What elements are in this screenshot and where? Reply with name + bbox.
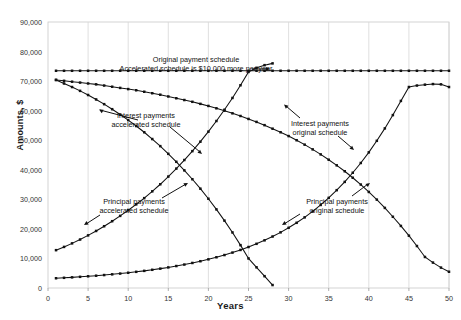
series-marker (167, 95, 170, 98)
y-tick-label: 10,000 (20, 254, 42, 263)
series-marker (263, 124, 266, 127)
series-marker (368, 70, 371, 73)
annotation-interest-original-note: Interest paymentsoriginal schedule (291, 119, 349, 137)
series-marker (319, 70, 322, 73)
series-marker (199, 103, 202, 106)
series-marker (432, 83, 435, 86)
series-marker (408, 86, 411, 89)
series-marker (95, 83, 98, 86)
series-marker (79, 70, 82, 73)
series-marker (215, 208, 218, 211)
y-axis-label: Amounts, $ (15, 77, 25, 173)
y-tick-label: 0 (38, 284, 42, 293)
series-marker (448, 270, 451, 273)
series-marker (55, 79, 58, 82)
series-marker (303, 216, 306, 219)
series-marker (87, 70, 90, 73)
series-marker (183, 169, 186, 172)
series-marker (416, 245, 419, 248)
series-marker (159, 145, 162, 148)
series-marker (103, 274, 106, 277)
series-marker (327, 158, 330, 161)
series-marker (151, 190, 154, 193)
series-marker (207, 258, 210, 261)
series-marker (103, 225, 106, 228)
series-marker (311, 148, 314, 151)
series-marker (376, 198, 379, 201)
series-marker (231, 97, 234, 100)
series-marker (199, 140, 202, 143)
series-marker (215, 256, 218, 259)
series-marker (103, 103, 106, 106)
series-marker (223, 254, 226, 257)
series-marker (392, 70, 395, 73)
series-marker (271, 235, 274, 238)
y-tick-label: 90,000 (20, 18, 42, 27)
series-marker (368, 151, 371, 154)
series-marker (175, 97, 178, 100)
series-marker (119, 215, 122, 218)
series-marker (352, 177, 355, 180)
series-marker (343, 170, 346, 173)
series-marker (400, 225, 403, 228)
series-marker (440, 70, 443, 73)
series-marker (111, 85, 114, 88)
series-marker (95, 274, 98, 277)
series-marker (135, 89, 138, 92)
series-marker (303, 143, 306, 146)
series-marker (440, 266, 443, 269)
series-marker (71, 242, 74, 245)
series-marker (384, 127, 387, 129)
series-marker (167, 266, 170, 269)
series-marker (143, 91, 146, 94)
y-tick-label: 30,000 (20, 195, 42, 204)
series-marker (424, 83, 427, 86)
series-marker (384, 70, 387, 73)
series-marker (271, 284, 274, 287)
series-marker (63, 70, 66, 73)
series-marker (376, 70, 379, 73)
x-axis-label: Years (0, 300, 461, 311)
chart-container: 010,00020,00030,00040,00050,00060,00070,… (0, 0, 461, 320)
series-marker (111, 273, 114, 276)
y-tick-label: 20,000 (20, 225, 42, 234)
series-marker (103, 84, 106, 87)
series-marker (151, 269, 154, 272)
series-marker (335, 189, 338, 192)
series-marker (143, 270, 146, 273)
series-marker (311, 70, 314, 73)
series-marker (335, 70, 338, 73)
series-marker (143, 131, 146, 134)
series-marker (287, 135, 290, 138)
series-marker (63, 82, 66, 85)
series-marker (424, 70, 427, 73)
series-marker (295, 139, 298, 142)
series-marker (279, 131, 282, 134)
series-marker (239, 249, 242, 252)
series-marker (63, 80, 66, 83)
series-marker (119, 272, 122, 275)
series-marker (319, 153, 322, 156)
chart-plot: 010,00020,00030,00040,00050,00060,00070,… (0, 0, 461, 320)
series-marker (183, 263, 186, 266)
series-marker (159, 267, 162, 270)
series-marker (151, 92, 154, 95)
series-marker (279, 70, 282, 73)
series-marker (215, 107, 218, 110)
series-marker (239, 115, 242, 118)
series-marker (87, 94, 90, 97)
series-marker (432, 261, 435, 264)
series-marker (416, 70, 419, 73)
series-marker (103, 70, 106, 73)
series-marker (87, 82, 90, 85)
annotation-principal-original-note: Principal paymentsoriginal schedule (306, 197, 368, 215)
series-marker (279, 231, 282, 234)
series-marker (231, 231, 234, 234)
series-marker (79, 238, 82, 241)
annotation-principal-accelerated-note: Principal paymentsaccelerated schedule (100, 197, 169, 215)
series-marker (223, 219, 226, 222)
series-marker (175, 161, 178, 164)
series-marker (295, 222, 298, 225)
series-marker (79, 276, 82, 279)
series-marker (127, 88, 130, 91)
